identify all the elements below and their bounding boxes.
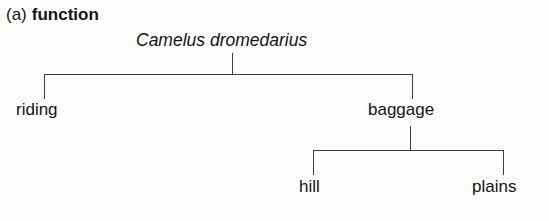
tree-node-baggage: baggage <box>368 100 434 120</box>
tree-node-plains: plains <box>472 177 516 197</box>
connector-level2-drop-plains <box>503 150 504 175</box>
connector-level2-drop-hill <box>313 150 314 175</box>
connector-level1-horizontal <box>44 74 413 75</box>
figure-caption: (a)function <box>6 4 99 25</box>
figure-caption-title: function <box>32 5 99 24</box>
tree-node-riding: riding <box>16 100 58 120</box>
connector-level1-drop-riding <box>44 74 45 99</box>
tree-node-root: Camelus dromedarius <box>136 30 307 50</box>
figure-caption-label: (a) <box>6 5 27 24</box>
connector-level1-drop-baggage <box>412 74 413 99</box>
figure-panel: (a)function Camelus dromedarius riding b… <box>0 0 549 221</box>
connector-root-stem <box>232 53 233 75</box>
tree-node-hill: hill <box>299 177 320 197</box>
connector-level2-horizontal <box>313 150 503 151</box>
connector-baggage-stem <box>410 126 411 150</box>
